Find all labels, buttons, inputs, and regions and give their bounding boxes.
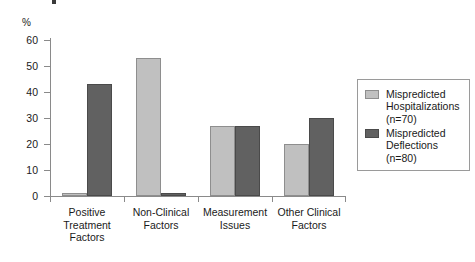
x-axis-tick (198, 197, 199, 202)
bar-chart: % 60 50 40 30 20 10 0 Positive Treatment… (0, 0, 475, 262)
bar-deflections-positive-treatment-factors (87, 84, 112, 196)
y-axis-tick-label: 20 (8, 139, 38, 149)
y-axis-tick (44, 118, 50, 119)
x-axis-tick (272, 197, 273, 202)
bar-hospitalizations-positive-treatment-factors (62, 193, 87, 196)
legend-swatch-icon-hospitalizations (365, 90, 379, 99)
y-axis-tick (44, 40, 50, 41)
category-label-line: Factors (266, 219, 352, 232)
x-axis-tick (124, 197, 125, 202)
y-axis-tick-label: 60 (8, 35, 38, 45)
legend-label-line: Hospitalizations (386, 100, 468, 112)
legend-label-line: Mispredicted (386, 127, 468, 139)
y-axis-tick (44, 92, 50, 93)
legend-label-hospitalizations: Mispredicted Hospitalizations (n=70) (386, 88, 468, 125)
legend-label-line: Deflections (386, 139, 468, 151)
category-label-line: Other Clinical (266, 206, 352, 219)
y-axis-tick-label: 50 (8, 61, 38, 71)
legend-swatch-icon-deflections (365, 129, 379, 138)
x-axis-category-label-3: Other Clinical Factors (266, 206, 352, 231)
y-axis-tick-label: 10 (8, 165, 38, 175)
bar-hospitalizations-other-clinical-factors (284, 144, 309, 196)
y-axis-tick-label: 30 (8, 113, 38, 123)
y-axis-tick (44, 66, 50, 67)
y-axis-tick (44, 144, 50, 145)
chart-legend: Mispredicted Hospitalizations (n=70) Mis… (357, 79, 470, 171)
bar-deflections-other-clinical-factors (309, 118, 334, 196)
bar-deflections-non-clinical-factors (161, 193, 186, 196)
category-label-line: Factors (44, 231, 130, 244)
y-axis-tick-label: 40 (8, 87, 38, 97)
x-axis-tick (50, 197, 51, 202)
legend-label-line: Mispredicted (386, 88, 468, 100)
y-axis-tick (44, 170, 50, 171)
y-axis-tick-label: 0 (8, 191, 38, 201)
legend-label-line: (n=80) (386, 152, 468, 164)
y-axis-line (50, 38, 51, 197)
bar-deflections-measurement-issues (235, 126, 260, 196)
legend-label-line: (n=70) (386, 113, 468, 125)
bar-hospitalizations-non-clinical-factors (136, 58, 161, 196)
y-axis-unit-label: % (22, 18, 31, 28)
bar-hospitalizations-measurement-issues (210, 126, 235, 196)
legend-label-deflections: Mispredicted Deflections (n=80) (386, 127, 468, 164)
x-axis-tick (345, 197, 346, 202)
